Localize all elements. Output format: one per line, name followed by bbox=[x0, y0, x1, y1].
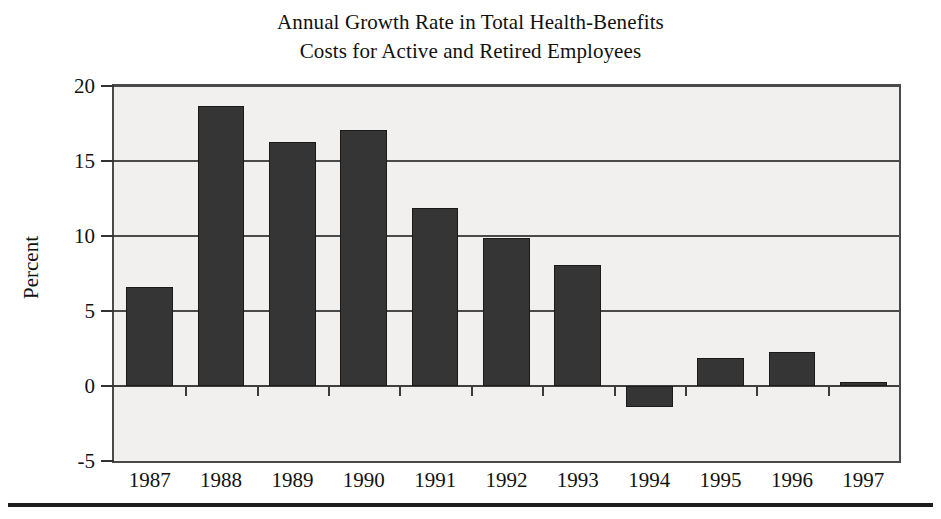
bar-1988 bbox=[198, 106, 245, 387]
x-tick-mark-9 bbox=[828, 386, 830, 396]
bar-1996 bbox=[769, 352, 816, 387]
x-axis-label-1991: 1991 bbox=[414, 468, 456, 493]
gridline-20 bbox=[114, 85, 899, 87]
y-tick-label-15: 15 bbox=[74, 149, 95, 174]
bar-1993 bbox=[554, 265, 601, 387]
chart-title-line-1: Annual Growth Rate in Total Health-Benef… bbox=[0, 8, 941, 37]
x-tick-mark-1 bbox=[257, 386, 259, 396]
y-tick-label--5: -5 bbox=[78, 449, 96, 474]
bar-1989 bbox=[269, 142, 316, 387]
x-tick-mark-8 bbox=[756, 386, 758, 396]
x-axis-label-1997: 1997 bbox=[842, 468, 884, 493]
bar-1995 bbox=[697, 358, 744, 387]
chart-title-line-2: Costs for Active and Retired Employees bbox=[0, 37, 941, 66]
bar-1997 bbox=[840, 382, 887, 387]
y-tick-mark-15 bbox=[101, 160, 114, 162]
bar-1992 bbox=[483, 238, 530, 387]
chart-figure: Annual Growth Rate in Total Health-Benef… bbox=[0, 0, 941, 519]
x-tick-mark-0 bbox=[185, 386, 187, 396]
x-tick-mark-5 bbox=[542, 386, 544, 396]
bottom-rule bbox=[8, 503, 933, 507]
x-axis-label-1989: 1989 bbox=[271, 468, 313, 493]
y-axis-title: Percent bbox=[19, 198, 44, 338]
x-tick-mark-2 bbox=[328, 386, 330, 396]
x-axis-label-1996: 1996 bbox=[771, 468, 813, 493]
x-tick-mark-4 bbox=[471, 386, 473, 396]
x-tick-mark-3 bbox=[399, 386, 401, 396]
x-axis-label-1993: 1993 bbox=[557, 468, 599, 493]
bar-1990 bbox=[340, 130, 387, 387]
x-axis-label-1994: 1994 bbox=[628, 468, 670, 493]
bar-1991 bbox=[412, 208, 459, 387]
x-axis-label-1995: 1995 bbox=[700, 468, 742, 493]
plot-area: 20151050-5 bbox=[112, 84, 901, 463]
bar-1987 bbox=[126, 287, 173, 386]
plot-inner: 20151050-5 bbox=[114, 86, 899, 461]
x-axis-label-1992: 1992 bbox=[486, 468, 528, 493]
x-axis-label-1988: 1988 bbox=[200, 468, 242, 493]
x-axis-label-1990: 1990 bbox=[343, 468, 385, 493]
x-axis-label-1987: 1987 bbox=[129, 468, 171, 493]
x-tick-mark-7 bbox=[685, 386, 687, 396]
y-tick-mark--5 bbox=[101, 460, 114, 462]
y-tick-mark-0 bbox=[101, 385, 114, 387]
y-tick-label-0: 0 bbox=[85, 374, 96, 399]
x-tick-mark-6 bbox=[614, 386, 616, 396]
y-tick-mark-20 bbox=[101, 85, 114, 87]
x-axis-labels: 1987198819891990199119921993199419951996… bbox=[112, 468, 901, 502]
chart-title: Annual Growth Rate in Total Health-Benef… bbox=[0, 8, 941, 66]
y-tick-label-20: 20 bbox=[74, 74, 95, 99]
bar-1994 bbox=[626, 386, 673, 407]
y-tick-mark-10 bbox=[101, 235, 114, 237]
y-tick-label-5: 5 bbox=[85, 299, 96, 324]
y-tick-mark-5 bbox=[101, 310, 114, 312]
y-tick-label-10: 10 bbox=[74, 224, 95, 249]
